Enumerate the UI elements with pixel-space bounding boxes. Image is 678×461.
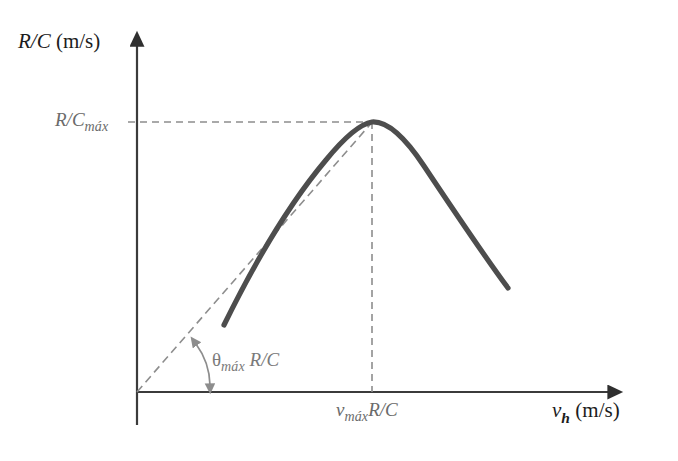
rc-max-symbol: R/C (55, 109, 85, 130)
rate-of-climb-curve (224, 122, 508, 325)
y-axis-title: R/C (m/s) (18, 31, 100, 52)
x-axis-subscript: h (561, 409, 570, 426)
x-axis-units: (m/s) (575, 398, 619, 422)
theta-symbol: θ (212, 349, 221, 370)
x-axis-symbol: v (552, 398, 561, 422)
rc-max-tick-label: R/Cmáx (55, 110, 108, 133)
rate-of-climb-diagram: R/C (m/s) vh (m/s) R/Cmáx vmáxR/C θmáx R… (0, 0, 678, 461)
theta-max-angle-label: θmáx R/C (212, 350, 279, 373)
theta-subscript: máx (221, 358, 245, 374)
rc-max-subscript: máx (85, 118, 109, 134)
diagram-canvas (0, 0, 678, 461)
v-max-suffix: R/C (368, 399, 398, 420)
y-axis-units: (m/s) (56, 29, 100, 53)
theta-suffix: R/C (250, 349, 280, 370)
v-max-tick-label: vmáxR/C (336, 400, 398, 423)
theta-max-angle-arc (196, 344, 210, 385)
v-max-subscript: máx (344, 408, 368, 424)
x-axis-title: vh (m/s) (552, 400, 620, 425)
y-axis-symbol: R/C (18, 29, 51, 53)
